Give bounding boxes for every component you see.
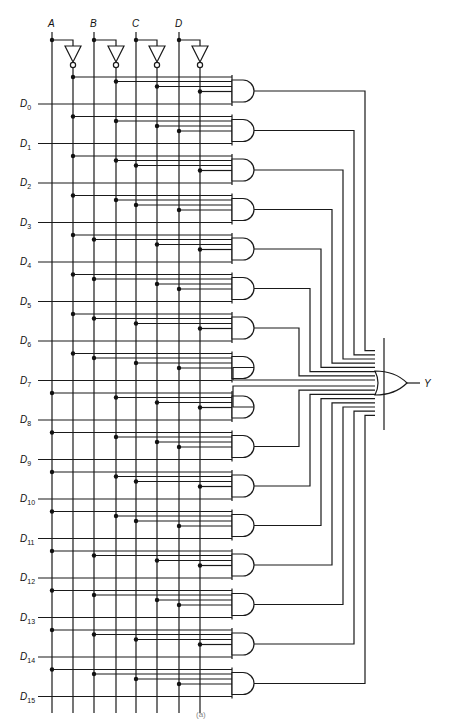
data-input-label-5: D5 — [20, 296, 31, 309]
junction-dot — [50, 430, 54, 434]
data-input-label-6: D6 — [20, 335, 31, 348]
data-input-label-0: D0 — [20, 98, 31, 111]
junction-dot — [50, 470, 54, 474]
and-gate-4-icon — [232, 238, 254, 260]
data-input-label-14: D14 — [20, 651, 35, 664]
junction-dot — [71, 154, 75, 158]
and-gate-12-icon — [232, 554, 254, 576]
and-gate-15-icon — [232, 673, 254, 695]
and-gate-11-icon — [232, 515, 254, 537]
junction-dot — [134, 321, 138, 325]
inverter-bubble — [197, 62, 202, 67]
junction-dot — [134, 203, 138, 207]
junction-dot — [134, 519, 138, 523]
junction-dot — [177, 287, 181, 291]
inverter-bubble — [113, 62, 118, 67]
junction-dot — [114, 514, 118, 518]
and-gate-6-icon — [232, 317, 254, 339]
junction-dot — [50, 509, 54, 513]
gate-output-wire-3 — [254, 210, 375, 364]
and-gate-13-icon — [232, 594, 254, 616]
junction-dot — [92, 553, 96, 557]
junction-dot — [92, 593, 96, 597]
junction-dot — [114, 474, 118, 478]
gate-output-wire-10 — [254, 394, 375, 486]
data-input-label-13: D13 — [20, 612, 35, 625]
junction-dot — [50, 391, 54, 395]
junction-dot — [134, 637, 138, 641]
junction-dot — [155, 400, 159, 404]
inverter-bubble — [154, 62, 159, 67]
data-input-label-8: D8 — [20, 414, 31, 427]
data-input-label-15: D15 — [20, 691, 35, 704]
and-gate-3-icon — [232, 199, 254, 221]
junction-dot — [114, 79, 118, 83]
output-label-y: Y — [424, 378, 432, 389]
junction-dot — [71, 193, 75, 197]
data-input-label-7: D7 — [20, 375, 31, 388]
inverter-c-icon — [149, 46, 165, 62]
junction-dot — [71, 351, 75, 355]
junction-dot — [71, 75, 75, 79]
junction-dot — [198, 563, 202, 567]
junction-dot — [50, 667, 54, 671]
select-label-b: B — [90, 18, 97, 29]
junction-dot — [155, 440, 159, 444]
junction-dot — [198, 326, 202, 330]
data-input-label-11: D11 — [20, 533, 35, 546]
inverter-b-icon — [108, 46, 124, 62]
and-gate-0-icon — [232, 80, 254, 102]
data-input-label-4: D4 — [20, 256, 31, 269]
junction-dot — [50, 628, 54, 632]
junction-dot — [177, 366, 181, 370]
inverter-d-icon — [192, 46, 208, 62]
junction-dot — [177, 524, 181, 528]
junction-dot — [114, 158, 118, 162]
junction-dot — [198, 89, 202, 93]
junction-dot — [155, 124, 159, 128]
junction-dot — [134, 677, 138, 681]
junction-dot — [155, 598, 159, 602]
and-gate-9-icon — [232, 436, 254, 458]
inverter-a-icon — [65, 46, 81, 62]
gate-output-wire-11 — [254, 399, 375, 526]
junction-dot — [177, 208, 181, 212]
junction-dot — [114, 395, 118, 399]
junction-dot — [198, 484, 202, 488]
figure-caption: (a) — [196, 710, 206, 719]
data-input-label-3: D3 — [20, 217, 31, 230]
junction-dot — [177, 682, 181, 686]
data-input-label-2: D2 — [20, 177, 31, 190]
junction-dot — [92, 277, 96, 281]
junction-dot — [198, 642, 202, 646]
junction-dot — [155, 242, 159, 246]
select-label-c: C — [132, 18, 140, 29]
junction-dot — [114, 435, 118, 439]
and-gate-10-icon — [232, 475, 254, 497]
or-gate-icon — [375, 371, 407, 395]
junction-dot — [177, 603, 181, 607]
junction-dot — [50, 549, 54, 553]
junction-dot — [71, 233, 75, 237]
and-gate-2-icon — [232, 159, 254, 181]
gate-output-wire-6 — [254, 328, 375, 376]
data-input-label-10: D10 — [20, 493, 35, 506]
select-label-d: D — [175, 18, 182, 29]
inverter-feed — [136, 40, 157, 46]
junction-dot — [114, 119, 118, 123]
junction-dot — [134, 479, 138, 483]
inverter-feed — [52, 40, 73, 46]
gate-output-wire-1 — [254, 131, 375, 355]
gate-output-wire-12 — [254, 403, 375, 565]
gate-output-wire-8 — [233, 386, 375, 407]
gate-output-wire-13 — [254, 407, 375, 605]
data-input-label-1: D1 — [20, 138, 31, 151]
and-gate-1-icon — [232, 120, 254, 142]
junction-dot — [198, 168, 202, 172]
inverter-bubble — [70, 62, 75, 67]
junction-dot — [155, 84, 159, 88]
gate-output-wire-4 — [254, 249, 375, 367]
junction-dot — [155, 282, 159, 286]
and-gate-5-icon — [232, 278, 254, 300]
data-input-label-9: D9 — [20, 454, 31, 467]
